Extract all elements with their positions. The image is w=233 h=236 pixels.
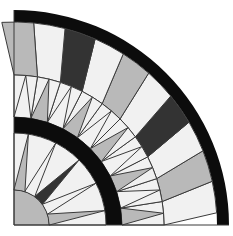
ray-tile [34,23,65,82]
mosaic-figure [0,0,233,236]
ray-tile [2,22,38,77]
